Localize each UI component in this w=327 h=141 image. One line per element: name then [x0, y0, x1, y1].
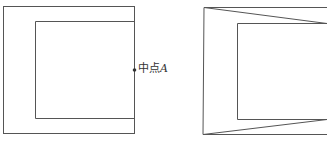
left-figure [4, 7, 137, 134]
left-outer-square [4, 7, 135, 134]
midpoint-a-dot [133, 68, 137, 72]
right-inner-square [238, 24, 327, 120]
midpoint-label-text: 中点 [138, 62, 160, 75]
midpoint-a-label: 中点A [138, 62, 168, 76]
right-bottom-diagonal [203, 120, 327, 135]
right-figure [203, 8, 327, 135]
right-outer-left-edge [203, 8, 204, 135]
left-inner-square [36, 22, 135, 119]
right-top-diagonal [204, 8, 327, 24]
midpoint-label-var: A [160, 62, 168, 75]
